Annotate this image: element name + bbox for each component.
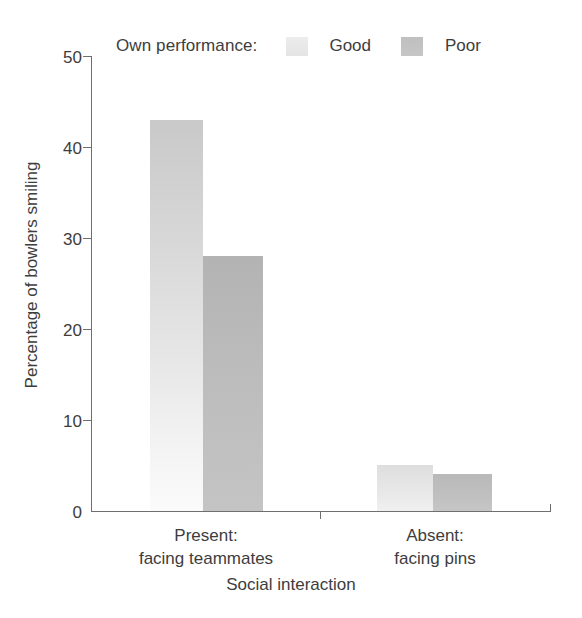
legend-swatch-good bbox=[286, 37, 308, 56]
legend-swatch-poor bbox=[401, 37, 423, 56]
x-category-absent-line1: Absent: bbox=[406, 526, 464, 545]
y-axis-title: Percentage of bowlers smiling bbox=[22, 40, 52, 510]
x-category-present-line1: Present: bbox=[174, 526, 237, 545]
bar-present-good bbox=[150, 120, 203, 511]
y-tick-label-0: 0 bbox=[40, 503, 82, 523]
y-tick-label-40: 40 bbox=[40, 139, 82, 159]
legend-title: Own performance: bbox=[116, 36, 257, 56]
x-category-present-line2: facing teammates bbox=[96, 547, 316, 570]
legend-label-good: Good bbox=[329, 36, 371, 56]
legend-label-poor: Poor bbox=[445, 36, 481, 56]
y-tick-label-30: 30 bbox=[40, 230, 82, 250]
legend-entry-poor: Poor bbox=[401, 36, 481, 56]
legend-entry-good: Good bbox=[286, 36, 371, 56]
x-category-label-absent: Absent: facing pins bbox=[325, 524, 545, 570]
x-tick-mark-center bbox=[320, 511, 321, 519]
bar-absent-good bbox=[377, 465, 433, 511]
y-tick-mark-50 bbox=[83, 56, 91, 57]
y-tick-mark-40 bbox=[83, 147, 91, 148]
y-tick-mark-20 bbox=[83, 329, 91, 330]
bar-present-poor bbox=[203, 256, 263, 511]
y-tick-label-10: 10 bbox=[40, 412, 82, 432]
bar-group-container bbox=[91, 56, 551, 511]
y-tick-label-20: 20 bbox=[40, 321, 82, 341]
y-tick-mark-30 bbox=[83, 238, 91, 239]
y-tick-label-50: 50 bbox=[40, 48, 82, 68]
y-tick-mark-10 bbox=[83, 420, 91, 421]
bar-absent-poor bbox=[433, 474, 492, 511]
bar-chart-figure: Own performance: Good Poor Percentage of… bbox=[0, 0, 582, 618]
x-axis-line bbox=[91, 511, 551, 512]
plot-area: Present: facing teammates Absent: facing… bbox=[91, 56, 551, 511]
x-category-label-present: Present: facing teammates bbox=[96, 524, 316, 570]
chart-legend: Own performance: Good Poor bbox=[116, 34, 481, 58]
x-axis-title: Social interaction bbox=[0, 575, 582, 595]
x-category-absent-line2: facing pins bbox=[325, 547, 545, 570]
